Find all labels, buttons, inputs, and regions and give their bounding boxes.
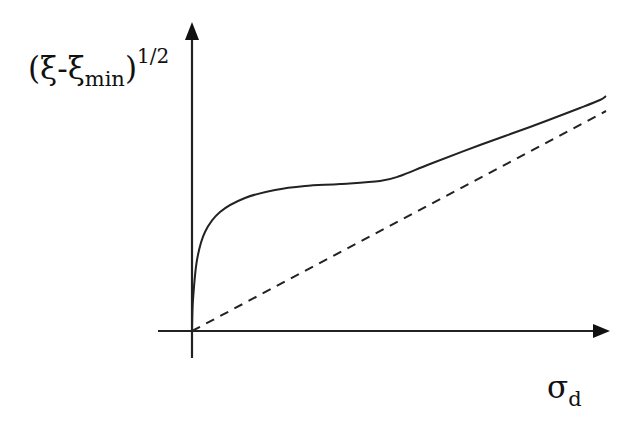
x-axis-label: σd	[547, 372, 582, 410]
y-axis-label: (ξ-ξmin)1/2	[28, 46, 169, 90]
solid-curve	[192, 96, 606, 331]
x-label-subscript: d	[568, 387, 581, 411]
dashed-asymptote	[192, 111, 606, 331]
y-label-subscript: min	[85, 67, 125, 91]
x-axis-arrow-icon	[593, 324, 610, 338]
y-label-superscript: 1/2	[137, 44, 169, 68]
x-label-main: σ	[547, 369, 568, 405]
y-label-main: (ξ-ξ	[28, 50, 85, 86]
x-axis	[158, 324, 610, 338]
y-label-close-paren: )	[125, 50, 137, 86]
y-axis-arrow-icon	[185, 22, 199, 40]
